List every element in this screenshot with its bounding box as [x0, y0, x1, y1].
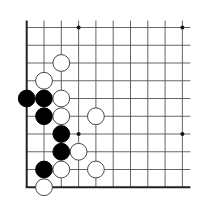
white-stone [70, 143, 87, 160]
white-stone [53, 108, 70, 125]
star-point [180, 132, 184, 136]
black-stone [53, 143, 70, 160]
black-stone [36, 90, 53, 107]
star-point [180, 26, 184, 30]
white-stone [53, 90, 70, 107]
black-stone [18, 90, 35, 107]
star-point [77, 26, 81, 30]
white-stone [53, 55, 70, 72]
star-point [77, 132, 81, 136]
white-stone [88, 161, 105, 178]
white-stone [88, 108, 105, 125]
black-stone [36, 108, 53, 125]
white-stone [36, 72, 53, 89]
white-stone [36, 179, 53, 196]
black-stone [36, 161, 53, 178]
white-stone [53, 161, 70, 178]
black-stone [53, 126, 70, 143]
go-board [0, 0, 204, 210]
